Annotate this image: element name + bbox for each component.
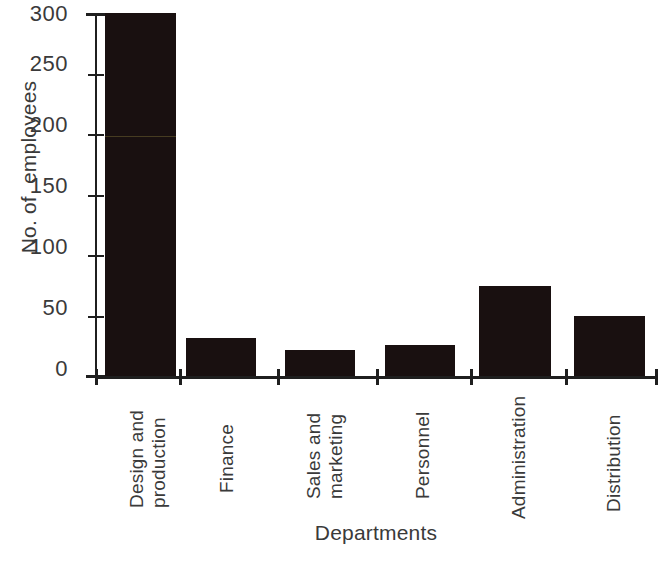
x-category-label-line2: production [148, 410, 170, 508]
x-category-label-line1: Personnel [412, 412, 433, 499]
bar-design-and-production[interactable] [105, 13, 176, 377]
bar-finance[interactable] [186, 338, 256, 377]
y-tick-label-100: 100 [20, 236, 68, 258]
x-tick-mark-5 [565, 369, 568, 385]
x-category-label-line1: Finance [216, 424, 237, 493]
y-tick-label-50: 50 [20, 297, 68, 319]
x-tick-mark-2 [277, 369, 280, 385]
x-category-label-personnel: Personnel [412, 412, 434, 499]
y-tick-label-300: 300 [20, 3, 68, 25]
y-tick-label-200: 200 [20, 114, 68, 136]
x-tick-mark-4 [470, 369, 473, 385]
y-tick-label-150: 150 [20, 175, 68, 197]
scan-artifact-line [105, 136, 176, 137]
x-axis-title: Departments [286, 521, 466, 545]
bar-distribution[interactable] [574, 316, 645, 377]
x-category-label-line1: Administration [508, 396, 529, 519]
y-tick-mark-50 [88, 316, 104, 318]
y-tick-label-0: 0 [20, 358, 68, 380]
x-tick-mark-3 [376, 369, 379, 385]
x-category-label-line1: Sales and [303, 413, 324, 499]
y-tick-mark-200 [88, 134, 104, 136]
bar-chart: No. of employees 300 250 200 150 100 50 … [0, 0, 672, 578]
x-category-label-design-and-production: Design and production [126, 410, 170, 508]
y-tick-mark-250 [88, 74, 104, 76]
x-category-label-sales-and-marketing: Sales and marketing [303, 413, 347, 499]
y-tick-mark-150 [88, 195, 104, 197]
y-tick-mark-300 [86, 13, 106, 16]
x-category-label-line1: Distribution [603, 415, 624, 512]
x-tick-mark-0 [95, 369, 98, 385]
x-category-label-line1: Design and [126, 410, 147, 508]
x-category-label-line2: marketing [325, 413, 347, 499]
x-category-label-finance: Finance [216, 424, 238, 493]
x-category-label-administration: Administration [508, 396, 530, 519]
bar-sales-and-marketing[interactable] [285, 350, 355, 377]
y-tick-mark-100 [88, 255, 104, 257]
x-tick-mark-6 [655, 369, 658, 385]
bar-administration[interactable] [479, 286, 551, 377]
bar-personnel[interactable] [385, 345, 455, 377]
x-tick-mark-1 [179, 369, 182, 385]
y-tick-label-250: 250 [20, 53, 68, 75]
x-category-label-distribution: Distribution [603, 415, 625, 512]
